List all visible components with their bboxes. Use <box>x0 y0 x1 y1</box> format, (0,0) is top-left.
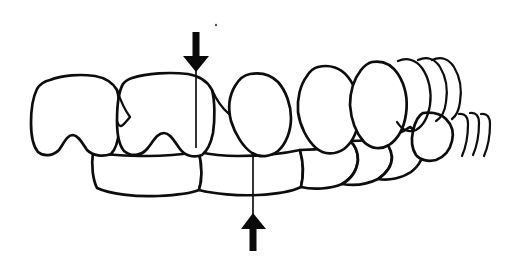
dental-occlusion-figure: Dental occlusion line drawing with midli… <box>0 0 509 279</box>
upper-tooth-5 <box>350 62 407 149</box>
lower-tooth-1 <box>92 152 201 196</box>
lower-tooth-2 <box>199 150 303 195</box>
lower-tooth-6 <box>412 113 453 161</box>
ink-speck <box>215 24 217 26</box>
dental-illustration-canvas: Dental occlusion line drawing with midli… <box>0 0 509 279</box>
